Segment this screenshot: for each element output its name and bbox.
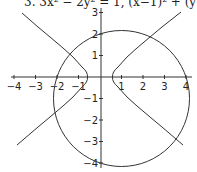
x-tick-label: −4 xyxy=(7,81,22,92)
hyperbola-left-branch xyxy=(17,13,88,145)
y-tick-label: 1 xyxy=(92,50,98,61)
y-tick-label: 3 xyxy=(92,7,98,18)
chart-title: 3. 3x² − 2y² = 1, (x−1)² + (y+1) xyxy=(24,0,197,9)
x-tick-label: −2 xyxy=(50,81,65,92)
circle-curve xyxy=(54,31,190,167)
y-tick-label: −3 xyxy=(83,136,98,147)
chart-figure: 3. 3x² − 2y² = 1, (x−1)² + (y+1) −4 −3 −… xyxy=(0,0,197,172)
x-tick-label: −3 xyxy=(28,81,43,92)
y-tick-label: −1 xyxy=(83,93,98,104)
y-tick-label: −2 xyxy=(83,115,98,126)
hyperbola-right-branch xyxy=(112,12,183,145)
x-tick-label: 3 xyxy=(161,81,167,92)
x-tick-label: 2 xyxy=(140,81,146,92)
x-tick-labels: −4 −3 −2 −1 1 2 3 4 xyxy=(7,81,190,92)
y-tick-label: 2 xyxy=(92,29,98,40)
